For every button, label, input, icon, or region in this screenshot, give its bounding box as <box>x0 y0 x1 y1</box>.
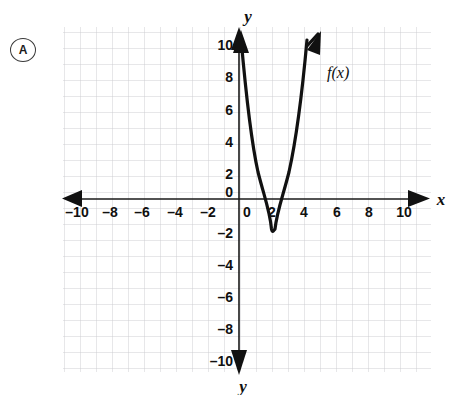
x-tick-label--2: –2 <box>200 204 216 220</box>
figure-container: A –10 –8 –6 –4 –2 0 2 4 6 <box>0 0 459 395</box>
y-tick-label-10: 10 <box>217 37 233 53</box>
x-tick-label--4: –4 <box>167 204 183 220</box>
y-tick-label-0: 0 <box>225 184 233 200</box>
y-tick-label-8: 8 <box>225 69 233 85</box>
y-axis-label-bottom: y <box>237 377 247 395</box>
y-axis-label-top: y <box>242 7 252 26</box>
question-badge-label: A <box>19 43 28 57</box>
y-tick-label--2: –2 <box>217 225 233 241</box>
x-tick-label--6: –6 <box>134 204 150 220</box>
y-tick-label-6: 6 <box>225 102 233 118</box>
y-tick-label--4: –4 <box>217 257 233 273</box>
x-tick-label-6: 6 <box>333 204 341 220</box>
question-badge-a: A <box>10 38 36 62</box>
x-tick-label-10: 10 <box>396 204 412 220</box>
y-tick-label-2: 2 <box>225 166 233 182</box>
x-tick-label--8: –8 <box>102 204 118 220</box>
x-tick-label-8: 8 <box>365 204 373 220</box>
y-tick-label--8: –8 <box>217 321 233 337</box>
x-tick-label--10: –10 <box>65 204 89 220</box>
y-tick-label--10: –10 <box>210 353 234 369</box>
curve-label-fx: f(x) <box>327 64 349 82</box>
y-tick-label-4: 4 <box>225 134 233 150</box>
x-axis-label: x <box>436 190 446 209</box>
x-tick-label-0: 0 <box>243 204 251 220</box>
coordinate-plane-graph: –10 –8 –6 –4 –2 0 2 4 6 8 10 10 8 6 4 2 … <box>0 0 459 395</box>
y-tick-label--6: –6 <box>217 289 233 305</box>
x-tick-label-4: 4 <box>300 204 308 220</box>
